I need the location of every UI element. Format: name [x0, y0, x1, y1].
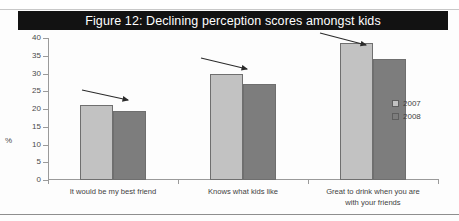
legend-swatch-icon-2008	[392, 113, 399, 120]
category-label-1: It would be my best friend	[48, 186, 178, 197]
category-label-2: Knows what kids like	[178, 186, 308, 197]
bar-group-1	[80, 38, 146, 180]
category-label-line1-1: It would be my best friend	[48, 186, 178, 197]
y-tick-label-0: 0	[15, 176, 41, 184]
figure-title: Figure 12: Declining perception scores a…	[85, 14, 381, 28]
bar-2007-cat3[interactable]	[340, 43, 373, 180]
y-tick-label-25: 25	[15, 87, 41, 95]
bar-2007-cat1[interactable]	[80, 105, 113, 180]
bar-2008-cat1[interactable]	[113, 111, 146, 180]
legend-item-2007[interactable]: 2007	[392, 97, 452, 110]
bar-2008-cat2[interactable]	[243, 84, 276, 180]
chart-plot-area: % 4035302520151050	[0, 32, 459, 182]
legend-label-2008: 2008	[403, 113, 421, 121]
legend-swatch-icon-2007	[392, 100, 399, 107]
y-tick-label-15: 15	[15, 123, 41, 131]
y-tick-label-5: 5	[15, 158, 41, 166]
y-axis-unit-label: %	[5, 136, 12, 145]
y-tick-label-20: 20	[15, 105, 41, 113]
y-tick-label-40: 40	[15, 34, 41, 42]
category-label-line1-2: Knows what kids like	[178, 186, 308, 197]
legend-item-2008[interactable]: 2008	[392, 110, 452, 123]
figure-title-banner: Figure 12: Declining perception scores a…	[18, 11, 448, 30]
x-tick-1	[48, 179, 49, 184]
divider-top	[0, 9, 459, 10]
bar-groups	[48, 38, 438, 180]
x-tick-end	[438, 179, 439, 184]
figure-page: Figure 12: Declining perception scores a…	[0, 0, 459, 221]
y-tick-label-35: 35	[15, 52, 41, 60]
x-axis-category-labels: It would be my best friendKnows what kid…	[48, 186, 438, 218]
chart-legend: 2007 2008	[392, 97, 452, 123]
y-tick-label-10: 10	[15, 141, 41, 149]
category-label-3: Great to drink when you arewith your fri…	[308, 186, 438, 208]
bar-2007-cat2[interactable]	[210, 74, 243, 181]
category-label-line2-3: with your friends	[308, 197, 438, 208]
y-tick-label-30: 30	[15, 70, 41, 78]
page-top-margin	[0, 0, 459, 9]
x-tick-2	[178, 179, 179, 184]
category-label-line1-3: Great to drink when you are	[308, 186, 438, 197]
bar-group-2	[210, 38, 276, 180]
legend-label-2007: 2007	[403, 100, 421, 108]
x-tick-3	[308, 179, 309, 184]
